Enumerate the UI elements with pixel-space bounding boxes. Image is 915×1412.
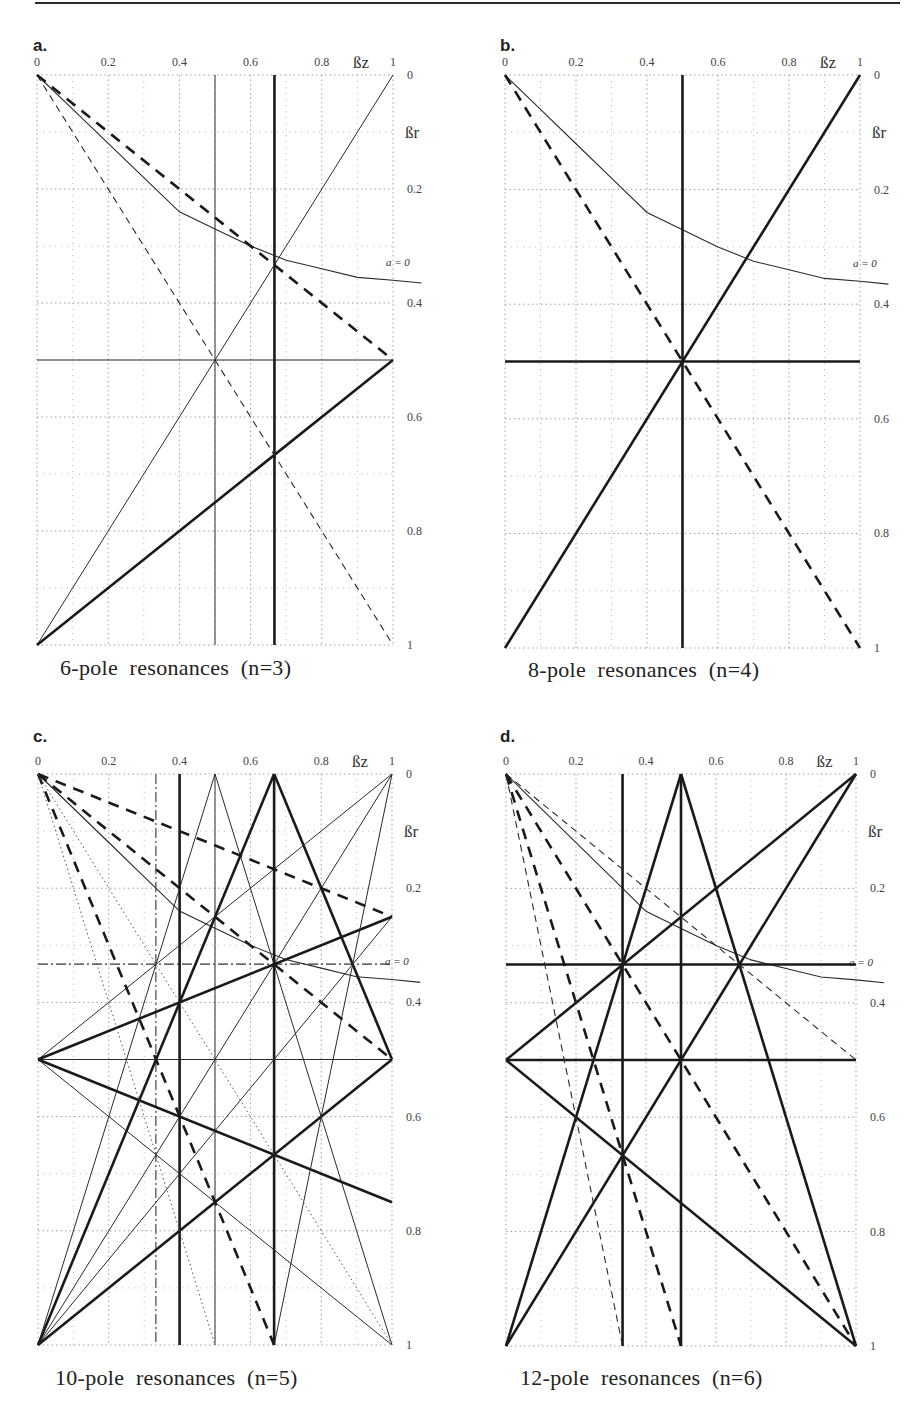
x-tick-label: 0 — [503, 754, 509, 768]
panel-caption: 12-pole resonances (n=6) — [520, 1365, 763, 1391]
resonance-lines — [506, 774, 856, 1346]
y-axis-label: ßr — [868, 822, 883, 841]
resonance-plot: 00.20.40.60.81ßz00.20.40.60.81ßra = 0 — [0, 0, 915, 1412]
y-tick-label: 0.2 — [870, 881, 885, 895]
x-tick-label: 1 — [853, 754, 859, 768]
x-tick-label: 0.6 — [709, 754, 724, 768]
x-tick-label: 0.8 — [779, 754, 794, 768]
y-tick-label: 0 — [870, 767, 876, 781]
panel-d: d. 00.20.40.60.81ßz00.20.40.60.81ßra = 0… — [0, 0, 915, 1412]
x-axis-label: ßz — [816, 752, 833, 771]
y-tick-label: 0.4 — [870, 996, 885, 1010]
y-tick-label: 0.8 — [870, 1225, 885, 1239]
a-zero-curve — [506, 774, 884, 983]
y-tick-label: 1 — [870, 1339, 876, 1353]
x-tick-label: 0.2 — [569, 754, 584, 768]
y-tick-label: 0.6 — [870, 1110, 885, 1124]
x-tick-label: 0.4 — [639, 754, 654, 768]
axis-ticks: 00.20.40.60.81ßz00.20.40.60.81ßr — [503, 752, 885, 1353]
curve-label: a = 0 — [849, 956, 873, 968]
